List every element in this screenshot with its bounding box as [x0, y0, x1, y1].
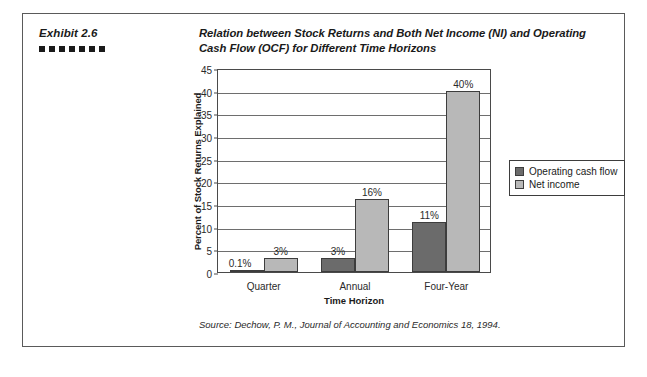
bar-value-label: 3%: [331, 246, 345, 257]
plot-area: 0510152025303540450.1%3%Quarter3%16%Annu…: [217, 69, 491, 273]
y-axis-title: Percent of Stock Returns Explained: [191, 69, 205, 273]
bar-net-income[interactable]: 40%: [446, 91, 480, 272]
bar-group: 3%16%: [309, 70, 400, 272]
x-tick-label: Four-Year: [424, 281, 468, 292]
chart-region: Percent of Stock Returns Explained 05101…: [23, 14, 626, 348]
bar-net-income[interactable]: 3%: [264, 258, 298, 272]
bar-value-label: 3%: [273, 246, 287, 257]
x-tick-label: Annual: [339, 281, 370, 292]
exhibit-frame: Exhibit 2.6 Relation between Stock Retur…: [22, 13, 625, 347]
bar-operating-cash-flow[interactable]: 3%: [321, 258, 355, 272]
bar-net-income[interactable]: 16%: [355, 199, 389, 272]
y-tick-label: 40: [201, 87, 212, 98]
legend-label: Net income: [529, 178, 580, 191]
chart-legend: Operating cash flow Net income: [509, 160, 625, 196]
y-tick-label: 5: [206, 246, 212, 257]
y-tick-label: 25: [201, 155, 212, 166]
y-tick-label: 20: [201, 178, 212, 189]
legend-item-net-income[interactable]: Net income: [515, 178, 617, 191]
bar-operating-cash-flow[interactable]: 0.1%: [230, 270, 264, 272]
legend-item-operating-cash-flow[interactable]: Operating cash flow: [515, 165, 617, 178]
bar-operating-cash-flow[interactable]: 11%: [412, 222, 446, 272]
y-tick-label: 35: [201, 110, 212, 121]
legend-label: Operating cash flow: [529, 165, 617, 178]
y-tick-mark: [214, 274, 218, 275]
x-tick-label: Quarter: [247, 281, 281, 292]
bar-group: 0.1%3%: [218, 70, 309, 272]
bar-group: 11%40%: [401, 70, 492, 272]
y-tick-label: 0: [206, 269, 212, 280]
bar-value-label: 11%: [420, 210, 439, 221]
x-axis-title: Time Horizon: [217, 295, 491, 306]
bar-value-label: 16%: [362, 187, 382, 198]
bar-value-label: 0.1%: [229, 258, 252, 269]
y-tick-label: 15: [201, 201, 212, 212]
y-tick-label: 45: [201, 65, 212, 76]
y-tick-label: 10: [201, 223, 212, 234]
legend-swatch-icon: [515, 167, 524, 176]
y-tick-label: 30: [201, 133, 212, 144]
legend-swatch-icon: [515, 180, 524, 189]
bar-value-label: 40%: [453, 79, 473, 90]
source-note: Source: Dechow, P. M., Journal of Accoun…: [199, 319, 501, 330]
